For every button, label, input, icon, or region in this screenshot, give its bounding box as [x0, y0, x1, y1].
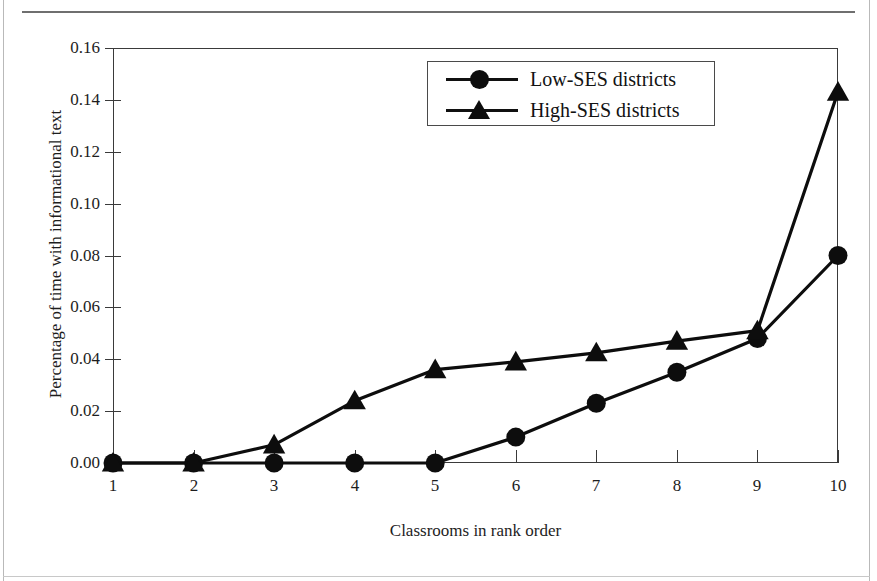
page-edge-bottom [3, 576, 870, 577]
x-tick-label: 9 [737, 477, 777, 494]
x-tick [516, 450, 517, 463]
legend-label-high-ses: High-SES districts [530, 99, 679, 121]
legend-label-low-ses: Low-SES districts [530, 68, 676, 90]
page-edge-right [869, 0, 870, 581]
horizontal-rule [22, 11, 855, 13]
legend-item-high-ses: High-SES districts [428, 94, 716, 126]
y-axis-title: Percentage of time with informational te… [46, 44, 66, 464]
y-tick [105, 411, 121, 412]
x-tick-label: 10 [818, 477, 858, 494]
legend-item-low-ses: Low-SES districts [428, 63, 716, 95]
legend: Low-SES districts High-SES districts [427, 61, 715, 126]
x-tick [435, 450, 436, 463]
y-tick [105, 463, 121, 464]
x-tick-label: 4 [335, 477, 375, 494]
circle-marker-icon [442, 63, 522, 95]
x-tick-label: 3 [254, 477, 294, 494]
x-tick [113, 450, 114, 463]
y-tick [105, 48, 121, 49]
y-tick [105, 359, 121, 360]
x-tick [355, 450, 356, 463]
page-edge-left [3, 0, 4, 581]
y-tick [105, 100, 121, 101]
x-tick [757, 450, 758, 463]
figure-root: 0.000.020.040.060.080.100.120.140.16 123… [0, 0, 877, 581]
y-tick [105, 204, 121, 205]
x-tick [677, 450, 678, 463]
x-axis-title: Classrooms in rank order [113, 521, 838, 541]
x-tick-label: 5 [415, 477, 455, 494]
x-tick-label: 7 [576, 477, 616, 494]
x-tick-label: 1 [93, 477, 133, 494]
x-tick [838, 450, 839, 463]
x-tick-label: 6 [496, 477, 536, 494]
x-tick-label: 2 [174, 477, 214, 494]
triangle-marker-icon [442, 94, 522, 126]
y-tick [105, 307, 121, 308]
y-tick [105, 256, 121, 257]
x-tick-label: 8 [657, 477, 697, 494]
x-tick [596, 450, 597, 463]
y-tick [105, 152, 121, 153]
caption-fragment [22, 0, 854, 11]
x-tick [274, 450, 275, 463]
x-tick [194, 450, 195, 463]
